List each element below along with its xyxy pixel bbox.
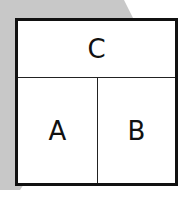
cell-b: B xyxy=(98,78,175,183)
partition-box: C A B xyxy=(15,18,178,186)
cell-a: A xyxy=(18,78,98,183)
cell-a-label: A xyxy=(49,116,67,146)
cell-c: C xyxy=(18,21,175,78)
cell-b-label: B xyxy=(128,116,146,146)
cell-c-label: C xyxy=(87,34,105,64)
